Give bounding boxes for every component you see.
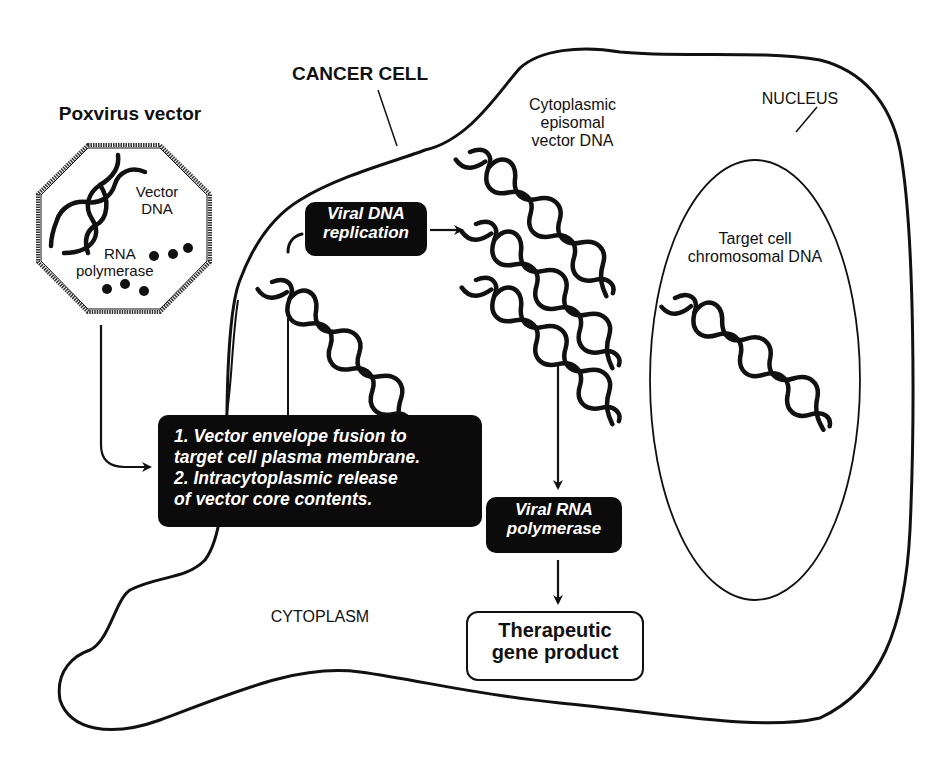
rna-polymerase-label-line2: polymerase [70, 263, 180, 280]
fusion-step-line4: of vector core contents. [174, 489, 482, 510]
viral-rna-polymerase-line1: Viral RNA [486, 501, 622, 520]
episomal-dna-label-line3: vector DNA [500, 132, 645, 150]
viral-rna-polymerase-line2: polymerase [486, 520, 622, 539]
episomal-dna-helix-icon [443, 209, 649, 370]
viral-rna-polymerase-box: Viral RNA polymerase [486, 497, 622, 553]
rna-polymerase-label-line1: RNA [70, 246, 180, 263]
fusion-step-line2: target cell plasma membrane. [174, 447, 482, 468]
therapeutic-gene-product-box: Therapeutic gene product [466, 611, 644, 681]
rna-polymerase-label: RNA polymerase [70, 246, 180, 280]
episomal-dna-label-line2: episomal [500, 114, 645, 132]
viral-dna-replication-line1: Viral DNA [305, 205, 427, 224]
chromosomal-dna-helix-icon [645, 283, 855, 431]
cancer-cell-title: CANCER CELL [265, 63, 455, 84]
cancer-cell-pointer [378, 90, 397, 146]
episomal-dna-helix-icon [437, 137, 643, 298]
nucleus-label: NUCLEUS [745, 90, 855, 108]
poxvirus-vector-title: Poxvirus vector [30, 103, 230, 124]
therapeutic-gene-product-line2: gene product [468, 641, 642, 663]
released-vector-dna-helix-icon [237, 267, 441, 433]
vector-dna-label-line2: DNA [122, 201, 192, 218]
vector-dna-label: Vector DNA [122, 184, 192, 218]
vector-fusion-release-box: 1. Vector envelope fusion to target cell… [158, 415, 482, 527]
nucleus-pointer [796, 107, 817, 132]
episomal-dna-label: Cytoplasmic episomal vector DNA [500, 96, 645, 150]
episomal-dna-helix-icon [443, 265, 649, 426]
chromosomal-dna-label-line2: chromosomal DNA [655, 248, 855, 266]
episomal-dna-label-line1: Cytoplasmic [500, 96, 645, 114]
nucleus [650, 160, 860, 600]
entry-arrow [101, 325, 150, 467]
viral-dna-replication-box: Viral DNA replication [305, 202, 427, 256]
viral-dna-replication-line2: replication [305, 224, 427, 243]
therapeutic-gene-product-line1: Therapeutic [468, 619, 642, 641]
cytoplasm-label: CYTOPLASM [245, 608, 395, 626]
replication-fragment [288, 234, 302, 252]
chromosomal-dna-label: Target cell chromosomal DNA [655, 230, 855, 266]
fusion-step-line3: 2. Intracytoplasmic release [174, 468, 482, 489]
vector-dna-label-line1: Vector [122, 184, 192, 201]
chromosomal-dna-label-line1: Target cell [655, 230, 855, 248]
fusion-step-line1: 1. Vector envelope fusion to [174, 426, 482, 447]
